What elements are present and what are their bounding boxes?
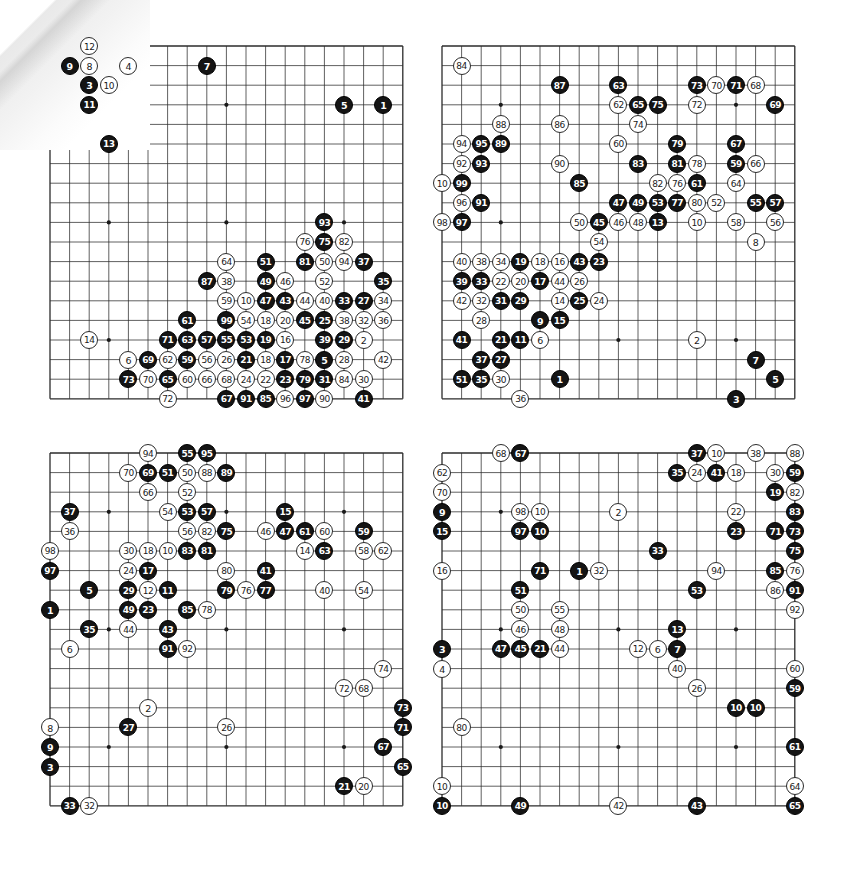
stone-white-28[interactable]: 28 <box>335 351 353 369</box>
stone-black-93[interactable]: 93 <box>472 155 490 173</box>
stone-black-29[interactable]: 29 <box>335 331 353 349</box>
stone-white-94[interactable]: 94 <box>139 444 157 462</box>
stone-white-54[interactable]: 54 <box>590 233 608 251</box>
stone-white-74[interactable]: 74 <box>374 660 392 678</box>
stone-black-73[interactable]: 73 <box>786 522 804 540</box>
stone-black-49[interactable]: 49 <box>629 194 647 212</box>
stone-white-96[interactable]: 96 <box>453 194 471 212</box>
stone-black-71[interactable]: 71 <box>159 331 177 349</box>
stone-black-17[interactable]: 17 <box>276 351 294 369</box>
stone-white-42[interactable]: 42 <box>453 292 471 310</box>
stone-white-72[interactable]: 72 <box>688 96 706 114</box>
stone-white-14[interactable]: 14 <box>296 542 314 560</box>
stone-white-38[interactable]: 38 <box>747 444 765 462</box>
stone-white-4[interactable]: 4 <box>433 660 451 678</box>
stone-white-8[interactable]: 8 <box>80 57 98 75</box>
stone-black-61[interactable]: 61 <box>688 174 706 192</box>
stone-white-90[interactable]: 90 <box>315 390 333 408</box>
stone-white-55[interactable]: 55 <box>551 601 569 619</box>
stone-white-94[interactable]: 94 <box>335 253 353 271</box>
stone-black-85[interactable]: 85 <box>178 601 196 619</box>
go-board-4[interactable]: 6867371038886235244118305970198299810222… <box>442 453 795 806</box>
stone-white-68[interactable]: 68 <box>355 679 373 697</box>
stone-black-23[interactable]: 23 <box>139 601 157 619</box>
stone-white-22[interactable]: 22 <box>492 272 510 290</box>
stone-black-75[interactable]: 75 <box>786 542 804 560</box>
stone-black-53[interactable]: 53 <box>688 581 706 599</box>
stone-black-91[interactable]: 91 <box>786 581 804 599</box>
stone-white-2[interactable]: 2 <box>139 699 157 717</box>
stone-white-54[interactable]: 54 <box>355 581 373 599</box>
stone-black-91[interactable]: 91 <box>159 640 177 658</box>
stone-white-78[interactable]: 78 <box>296 351 314 369</box>
stone-black-1[interactable]: 1 <box>374 96 392 114</box>
stone-white-78[interactable]: 78 <box>198 601 216 619</box>
stone-black-69[interactable]: 69 <box>139 351 157 369</box>
stone-black-69[interactable]: 69 <box>766 96 784 114</box>
stone-black-71[interactable]: 71 <box>531 562 549 580</box>
stone-black-85[interactable]: 85 <box>766 562 784 580</box>
stone-black-9[interactable]: 9 <box>61 57 79 75</box>
stone-black-83[interactable]: 83 <box>786 503 804 521</box>
stone-white-18[interactable]: 18 <box>727 464 745 482</box>
stone-white-98[interactable]: 98 <box>41 542 59 560</box>
stone-black-77[interactable]: 77 <box>668 194 686 212</box>
stone-white-2[interactable]: 2 <box>688 331 706 349</box>
stone-white-30[interactable]: 30 <box>355 370 373 388</box>
stone-black-37[interactable]: 37 <box>472 351 490 369</box>
stone-white-18[interactable]: 18 <box>139 542 157 560</box>
stone-black-77[interactable]: 77 <box>257 581 275 599</box>
stone-white-82[interactable]: 82 <box>335 233 353 251</box>
go-board-3[interactable]: 9455957069515088896652375453571536568275… <box>50 453 403 806</box>
stone-black-37[interactable]: 37 <box>355 253 373 271</box>
stone-black-21[interactable]: 21 <box>492 331 510 349</box>
stone-black-97[interactable]: 97 <box>41 562 59 580</box>
stone-white-50[interactable]: 50 <box>178 464 196 482</box>
stone-black-83[interactable]: 83 <box>629 155 647 173</box>
stone-white-54[interactable]: 54 <box>159 503 177 521</box>
stone-white-14[interactable]: 14 <box>551 292 569 310</box>
stone-white-16[interactable]: 16 <box>551 253 569 271</box>
stone-white-6[interactable]: 6 <box>61 640 79 658</box>
stone-black-99[interactable]: 99 <box>453 174 471 192</box>
stone-black-81[interactable]: 81 <box>668 155 686 173</box>
stone-black-33[interactable]: 33 <box>61 797 79 815</box>
stone-white-78[interactable]: 78 <box>688 155 706 173</box>
stone-black-43[interactable]: 43 <box>688 797 706 815</box>
stone-white-32[interactable]: 32 <box>590 562 608 580</box>
stone-black-21[interactable]: 21 <box>531 640 549 658</box>
stone-white-8[interactable]: 8 <box>747 233 765 251</box>
stone-black-10[interactable]: 10 <box>727 699 745 717</box>
stone-black-53[interactable]: 53 <box>237 331 255 349</box>
stone-white-88[interactable]: 88 <box>198 464 216 482</box>
stone-black-67[interactable]: 67 <box>217 390 235 408</box>
stone-black-11[interactable]: 11 <box>80 96 98 114</box>
stone-white-32[interactable]: 32 <box>80 797 98 815</box>
stone-black-85[interactable]: 85 <box>257 390 275 408</box>
stone-black-59[interactable]: 59 <box>178 351 196 369</box>
stone-white-10[interactable]: 10 <box>531 503 549 521</box>
stone-black-31[interactable]: 31 <box>492 292 510 310</box>
stone-black-7[interactable]: 7 <box>747 351 765 369</box>
stone-black-65[interactable]: 65 <box>786 797 804 815</box>
stone-white-96[interactable]: 96 <box>276 390 294 408</box>
stone-black-53[interactable]: 53 <box>649 194 667 212</box>
stone-black-1[interactable]: 1 <box>551 370 569 388</box>
stone-black-39[interactable]: 39 <box>453 272 471 290</box>
stone-black-15[interactable]: 15 <box>276 503 294 521</box>
stone-white-56[interactable]: 56 <box>198 351 216 369</box>
stone-white-80[interactable]: 80 <box>688 194 706 212</box>
stone-black-51[interactable]: 51 <box>257 253 275 271</box>
stone-black-33[interactable]: 33 <box>335 292 353 310</box>
stone-white-26[interactable]: 26 <box>688 679 706 697</box>
stone-black-57[interactable]: 57 <box>766 194 784 212</box>
stone-black-79[interactable]: 79 <box>296 370 314 388</box>
stone-white-62[interactable]: 62 <box>433 464 451 482</box>
stone-white-66[interactable]: 66 <box>198 370 216 388</box>
stone-black-67[interactable]: 67 <box>727 135 745 153</box>
stone-black-61[interactable]: 61 <box>786 738 804 756</box>
stone-black-87[interactable]: 87 <box>198 272 216 290</box>
stone-black-9[interactable]: 9 <box>41 738 59 756</box>
stone-black-41[interactable]: 41 <box>355 390 373 408</box>
stone-white-42[interactable]: 42 <box>609 797 627 815</box>
